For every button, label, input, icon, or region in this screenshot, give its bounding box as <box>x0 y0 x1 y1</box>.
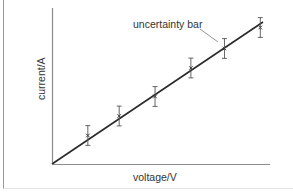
data-point <box>117 106 122 126</box>
chart-plot: uncertainty bar voltage/V current/A <box>0 0 293 192</box>
fit-line <box>52 22 263 164</box>
y-axis-label: current/A <box>35 57 47 100</box>
data-point <box>85 126 90 146</box>
annotation-leader <box>200 29 218 42</box>
x-axis-label: voltage/V <box>133 171 177 183</box>
annotation-uncertainty-bar: uncertainty bar <box>133 18 203 30</box>
data-point <box>258 18 263 38</box>
data-point <box>188 58 193 78</box>
